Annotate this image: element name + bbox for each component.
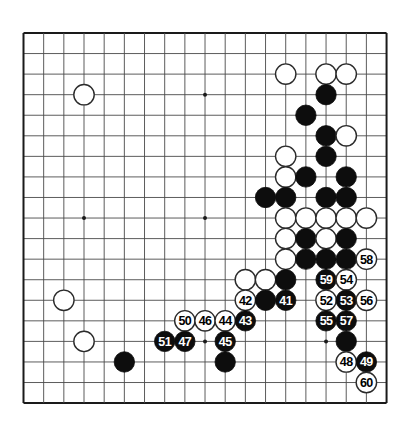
white-stone[interactable] bbox=[276, 146, 296, 166]
stone-black[interactable] bbox=[276, 187, 296, 207]
stone-black[interactable] bbox=[255, 290, 275, 310]
stone-white[interactable] bbox=[276, 146, 296, 166]
stone-white-54[interactable]: 54 bbox=[336, 270, 356, 290]
stone-black[interactable] bbox=[316, 126, 336, 146]
white-stone[interactable] bbox=[276, 64, 296, 84]
stone-black-59[interactable]: 59 bbox=[316, 270, 336, 290]
black-stone[interactable] bbox=[296, 105, 316, 125]
stone-black[interactable] bbox=[114, 352, 134, 372]
stone-black-55[interactable]: 55 bbox=[316, 311, 336, 331]
go-board-svg[interactable]: 5859544241525356504644435557514745484960 bbox=[0, 0, 409, 429]
stone-white[interactable] bbox=[74, 331, 94, 351]
stone-black[interactable] bbox=[336, 167, 356, 187]
stone-white[interactable] bbox=[336, 64, 356, 84]
stone-white[interactable] bbox=[316, 228, 336, 248]
white-stone[interactable] bbox=[336, 208, 356, 228]
white-stone[interactable] bbox=[356, 208, 376, 228]
stone-white[interactable] bbox=[276, 64, 296, 84]
white-stone[interactable] bbox=[74, 84, 94, 104]
white-stone[interactable] bbox=[276, 208, 296, 228]
stone-black-53[interactable]: 53 bbox=[336, 290, 356, 310]
stone-black[interactable] bbox=[336, 249, 356, 269]
stone-white[interactable] bbox=[356, 208, 376, 228]
black-stone[interactable] bbox=[316, 146, 336, 166]
stone-black[interactable] bbox=[296, 249, 316, 269]
stone-black-51[interactable]: 51 bbox=[154, 331, 174, 351]
black-stone[interactable] bbox=[336, 187, 356, 207]
stone-black[interactable] bbox=[296, 105, 316, 125]
stone-black[interactable] bbox=[316, 187, 336, 207]
stone-white-56[interactable]: 56 bbox=[356, 290, 376, 310]
stone-white[interactable] bbox=[276, 228, 296, 248]
stone-white-42[interactable]: 42 bbox=[235, 290, 255, 310]
stone-white[interactable] bbox=[74, 84, 94, 104]
stone-white[interactable] bbox=[54, 290, 74, 310]
black-stone[interactable] bbox=[336, 167, 356, 187]
white-stone[interactable] bbox=[276, 228, 296, 248]
black-stone[interactable] bbox=[215, 352, 235, 372]
white-stone[interactable] bbox=[235, 270, 255, 290]
white-stone[interactable] bbox=[316, 228, 336, 248]
stone-white-50[interactable]: 50 bbox=[175, 311, 195, 331]
black-stone[interactable] bbox=[114, 352, 134, 372]
stone-black[interactable] bbox=[255, 187, 275, 207]
stone-black[interactable] bbox=[296, 228, 316, 248]
stone-black[interactable] bbox=[316, 146, 336, 166]
black-stone[interactable] bbox=[316, 187, 336, 207]
stone-white-60[interactable]: 60 bbox=[356, 372, 376, 392]
stone-black-45[interactable]: 45 bbox=[215, 331, 235, 351]
white-stone[interactable] bbox=[296, 208, 316, 228]
stone-white-58[interactable]: 58 bbox=[356, 249, 376, 269]
white-stone[interactable] bbox=[74, 331, 94, 351]
black-stone[interactable] bbox=[336, 331, 356, 351]
stone-black-49[interactable]: 49 bbox=[356, 352, 376, 372]
stone-white-48[interactable]: 48 bbox=[336, 352, 356, 372]
white-stone[interactable] bbox=[316, 64, 336, 84]
stone-white[interactable] bbox=[235, 270, 255, 290]
white-stone[interactable] bbox=[54, 290, 74, 310]
stone-black-43[interactable]: 43 bbox=[235, 311, 255, 331]
stone-white-52[interactable]: 52 bbox=[316, 290, 336, 310]
white-stone[interactable] bbox=[276, 167, 296, 187]
stone-black[interactable] bbox=[336, 331, 356, 351]
stone-black-57[interactable]: 57 bbox=[336, 311, 356, 331]
white-stone[interactable] bbox=[316, 208, 336, 228]
stone-white-46[interactable]: 46 bbox=[195, 311, 215, 331]
stone-white[interactable] bbox=[276, 208, 296, 228]
stone-black-47[interactable]: 47 bbox=[175, 331, 195, 351]
stone-white[interactable] bbox=[255, 270, 275, 290]
black-stone[interactable] bbox=[296, 228, 316, 248]
black-stone[interactable] bbox=[276, 270, 296, 290]
black-stone[interactable] bbox=[296, 167, 316, 187]
stone-black[interactable] bbox=[276, 270, 296, 290]
stone-black[interactable] bbox=[215, 352, 235, 372]
go-board[interactable]: 5859544241525356504644435557514745484960 bbox=[0, 0, 409, 429]
stone-black[interactable] bbox=[296, 167, 316, 187]
black-stone[interactable] bbox=[296, 249, 316, 269]
white-stone[interactable] bbox=[336, 126, 356, 146]
stone-black-41[interactable]: 41 bbox=[276, 290, 296, 310]
stone-black[interactable] bbox=[336, 187, 356, 207]
black-stone[interactable] bbox=[316, 84, 336, 104]
stone-white[interactable] bbox=[276, 249, 296, 269]
stone-white-44[interactable]: 44 bbox=[215, 311, 235, 331]
black-stone[interactable] bbox=[255, 187, 275, 207]
stone-black[interactable] bbox=[316, 84, 336, 104]
white-stone[interactable] bbox=[255, 270, 275, 290]
black-stone[interactable] bbox=[316, 249, 336, 269]
white-stone[interactable] bbox=[336, 64, 356, 84]
stone-white[interactable] bbox=[296, 208, 316, 228]
black-stone[interactable] bbox=[336, 249, 356, 269]
stone-black[interactable] bbox=[336, 228, 356, 248]
black-stone[interactable] bbox=[255, 290, 275, 310]
stone-white[interactable] bbox=[336, 126, 356, 146]
stone-white[interactable] bbox=[316, 64, 336, 84]
stone-white[interactable] bbox=[276, 167, 296, 187]
stone-white[interactable] bbox=[336, 208, 356, 228]
stone-white[interactable] bbox=[316, 208, 336, 228]
black-stone[interactable] bbox=[276, 187, 296, 207]
stone-black[interactable] bbox=[316, 249, 336, 269]
black-stone[interactable] bbox=[336, 228, 356, 248]
white-stone[interactable] bbox=[276, 249, 296, 269]
black-stone[interactable] bbox=[316, 126, 336, 146]
